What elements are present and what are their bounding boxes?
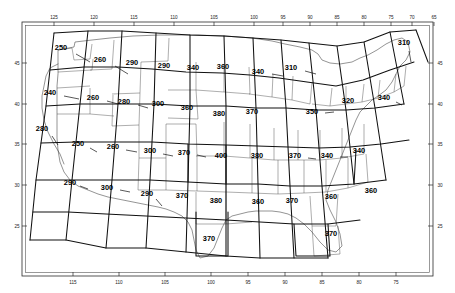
- grid-cell-value-14: 380: [213, 109, 225, 118]
- tick-label-bottom-75: 75: [393, 280, 399, 285]
- grid-cell-value-37: 360: [365, 186, 377, 195]
- grid-cell-value-30: 300: [101, 183, 113, 192]
- grid-cell-value-23: 370: [178, 148, 190, 157]
- grid-cell-value-13: 360: [181, 103, 193, 112]
- grid-cell-value-29: 290: [64, 178, 76, 187]
- tick-label-top-105: 105: [210, 15, 218, 20]
- tick-label-left-30: 30: [14, 183, 20, 188]
- tick-label-top-115: 115: [130, 15, 138, 20]
- tick-label-bottom-80: 80: [356, 280, 362, 285]
- grid-cell-value-38: 370: [203, 234, 215, 243]
- tick-label-top-85: 85: [334, 15, 340, 20]
- grid-cell-value-25: 380: [251, 151, 263, 160]
- tick-label-left-35: 35: [14, 142, 20, 147]
- grid-cell-value-22: 300: [144, 146, 156, 155]
- grid-cell-value-39: 370: [325, 229, 337, 238]
- value-leader-line: [325, 112, 334, 113]
- value-leader-line: [120, 190, 130, 192]
- grid-cell-value-28: 340: [353, 146, 365, 155]
- grid-cell-value-5: 360: [217, 62, 229, 71]
- grid-cell-value-0: 250: [55, 43, 67, 52]
- value-leader-line: [64, 96, 79, 99]
- tick-label-right-25: 25: [437, 224, 443, 229]
- grid-cell-value-36: 360: [325, 192, 337, 201]
- grid-cell-value-7: 310: [285, 63, 297, 72]
- tick-label-top-65: 65: [431, 15, 437, 20]
- tick-label-top-75: 75: [388, 15, 394, 20]
- tick-label-right-35: 35: [437, 142, 443, 147]
- tick-label-bottom-110: 110: [115, 280, 123, 285]
- map-figure: 1251201151101051009590858075706511511010…: [0, 0, 455, 293]
- grid-cell-value-20: 250: [72, 139, 84, 148]
- tick-label-bottom-105: 105: [161, 280, 169, 285]
- grid-cell-value-18: 340: [378, 93, 390, 102]
- tick-label-right-30: 30: [437, 183, 443, 188]
- tick-label-right-40: 40: [437, 102, 443, 107]
- grid-cell-value-10: 260: [87, 93, 99, 102]
- grid-cell-value-12: 300: [152, 99, 164, 108]
- value-leader-line: [76, 54, 90, 62]
- tick-label-right-45: 45: [437, 61, 443, 66]
- grid-cell-value-1: 260: [94, 55, 106, 64]
- tick-label-top-110: 110: [170, 15, 178, 20]
- value-leader-line: [163, 154, 173, 156]
- grid-cell-value-16: 350: [306, 107, 318, 116]
- tick-label-left-45: 45: [14, 61, 20, 66]
- grid-cell-value-2: 290: [126, 58, 138, 67]
- grid-cell-value-17: 320: [342, 96, 354, 105]
- tick-label-left-25: 25: [14, 224, 20, 229]
- value-leader-line: [272, 74, 283, 76]
- grid-cell-value-15: 370: [246, 107, 258, 116]
- grid-cell-value-31: 290: [141, 189, 153, 198]
- tick-label-top-80: 80: [361, 15, 367, 20]
- grid-cell-value-8: 310: [398, 38, 410, 47]
- tick-label-left-40: 40: [14, 102, 20, 107]
- grid-cell-value-34: 360: [252, 197, 264, 206]
- grid-cell-value-27: 340: [321, 151, 333, 160]
- value-leader-line: [409, 51, 411, 62]
- grid-cell-value-4: 340: [187, 63, 199, 72]
- grid-cell-value-3: 290: [158, 61, 170, 70]
- tick-label-bottom-90: 90: [282, 280, 288, 285]
- grid-cell-value-19: 280: [36, 124, 48, 133]
- grid-cell-value-21: 260: [107, 142, 119, 151]
- grid-cell-value-24: 400: [215, 151, 227, 160]
- tick-label-top-90: 90: [307, 15, 313, 20]
- value-leader-line: [126, 150, 137, 152]
- tick-label-bottom-85: 85: [319, 280, 325, 285]
- tick-label-bottom-100: 100: [207, 280, 215, 285]
- tick-label-bottom-95: 95: [245, 280, 251, 285]
- grid-cell-value-6: 340: [252, 67, 264, 76]
- grid-cell-value-26: 370: [289, 151, 301, 160]
- grid-cell-value-32: 370: [176, 191, 188, 200]
- map-canvas: 1251201151101051009590858075706511511010…: [0, 0, 455, 293]
- tick-label-top-100: 100: [250, 15, 258, 20]
- value-leader-line: [90, 148, 97, 152]
- grid-cell-value-35: 370: [286, 196, 298, 205]
- value-leader-line: [305, 71, 316, 74]
- value-leader-line: [308, 158, 316, 159]
- tick-label-bottom-115: 115: [69, 280, 77, 285]
- grid-cell-value-9: 240: [44, 88, 56, 97]
- tick-label-top-70: 70: [409, 15, 415, 20]
- tick-label-top-125: 125: [50, 15, 58, 20]
- grid-cell-value-33: 380: [210, 196, 222, 205]
- value-leader-line: [156, 199, 162, 206]
- tick-label-top-120: 120: [90, 15, 98, 20]
- grid-cell-value-11: 280: [118, 97, 130, 106]
- tick-label-top-95: 95: [280, 15, 286, 20]
